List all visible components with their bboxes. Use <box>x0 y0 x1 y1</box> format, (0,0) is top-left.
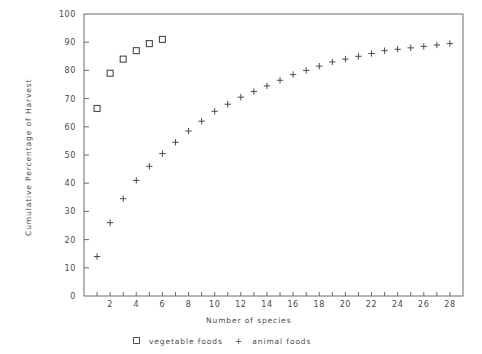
data-point-animal-foods <box>225 101 231 107</box>
data-point-vegetable-foods <box>94 105 100 111</box>
data-point-animal-foods <box>394 46 400 52</box>
x-tick-label: 22 <box>366 300 377 309</box>
x-tick-label: 8 <box>186 300 192 309</box>
x-tick-label: 28 <box>444 300 455 309</box>
data-point-animal-foods <box>159 150 165 156</box>
y-tick-label: 60 <box>65 123 76 132</box>
data-point-animal-foods <box>185 128 191 134</box>
x-tick-label: 20 <box>340 300 351 309</box>
data-point-animal-foods <box>303 67 309 73</box>
x-tick-label: 16 <box>287 300 298 309</box>
x-tick-label: 10 <box>209 300 220 309</box>
data-point-animal-foods <box>94 253 100 259</box>
data-point-animal-foods <box>277 77 283 83</box>
plot-area: 0102030405060708090100246810121416182022… <box>0 0 482 354</box>
x-tick-label: 6 <box>160 300 166 309</box>
x-tick-label: 12 <box>235 300 246 309</box>
y-tick-label: 10 <box>65 264 76 273</box>
data-point-animal-foods <box>447 40 453 46</box>
data-point-animal-foods <box>172 139 178 145</box>
data-point-animal-foods <box>329 59 335 65</box>
data-point-animal-foods <box>120 196 126 202</box>
plot-frame <box>84 14 463 296</box>
data-point-vegetable-foods <box>120 56 126 62</box>
y-tick-label: 30 <box>65 207 76 216</box>
chart-figure: Cumulative Percentage of Harvest Number … <box>0 0 482 354</box>
data-point-animal-foods <box>368 50 374 56</box>
y-tick-label: 50 <box>65 151 76 160</box>
x-tick-label: 14 <box>261 300 272 309</box>
data-point-animal-foods <box>198 118 204 124</box>
data-point-animal-foods <box>316 63 322 69</box>
y-tick-label: 100 <box>59 10 76 19</box>
y-tick-label: 70 <box>65 95 76 104</box>
data-point-animal-foods <box>211 108 217 114</box>
data-point-animal-foods <box>342 56 348 62</box>
data-point-animal-foods <box>421 43 427 49</box>
x-tick-label: 24 <box>392 300 403 309</box>
y-tick-label: 90 <box>65 38 76 47</box>
y-tick-label: 20 <box>65 236 76 245</box>
data-point-animal-foods <box>264 83 270 89</box>
data-point-animal-foods <box>146 163 152 169</box>
data-point-animal-foods <box>133 177 139 183</box>
data-point-animal-foods <box>107 219 113 225</box>
y-tick-label: 80 <box>65 66 76 75</box>
x-tick-label: 18 <box>314 300 325 309</box>
data-point-vegetable-foods <box>133 48 139 54</box>
data-point-vegetable-foods <box>159 36 165 42</box>
y-tick-label: 40 <box>65 179 76 188</box>
data-point-animal-foods <box>381 47 387 53</box>
y-tick-label: 0 <box>70 292 76 301</box>
x-tick-label: 2 <box>107 300 113 309</box>
data-point-animal-foods <box>408 45 414 51</box>
data-point-animal-foods <box>290 71 296 77</box>
data-point-animal-foods <box>355 53 361 59</box>
data-point-vegetable-foods <box>146 41 152 47</box>
data-point-animal-foods <box>251 88 257 94</box>
data-point-vegetable-foods <box>107 70 113 76</box>
data-point-animal-foods <box>434 42 440 48</box>
x-tick-label: 4 <box>133 300 139 309</box>
x-tick-label: 26 <box>418 300 429 309</box>
data-point-animal-foods <box>238 94 244 100</box>
